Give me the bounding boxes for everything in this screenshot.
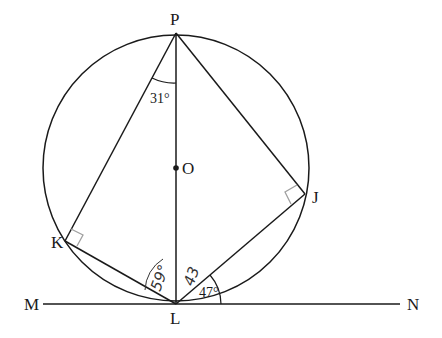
label-p: P [170, 10, 179, 29]
right-angle-marker-k [71, 229, 83, 246]
angle-label-jln: 47° [199, 285, 219, 300]
right-angle-marker-j [285, 185, 297, 204]
angle-label-kpl: 31° [150, 91, 170, 106]
label-o: O [182, 159, 194, 178]
label-j: J [312, 188, 319, 207]
handwritten-angle-59: 59° [147, 262, 173, 293]
label-n: N [407, 295, 419, 314]
chord-pk [65, 33, 176, 241]
center-point-o [173, 165, 179, 171]
circle-geometry-diagram: P O L K J M N 31° 47° 59° 43 [0, 0, 442, 338]
label-m: M [24, 295, 39, 314]
label-k: K [51, 233, 64, 252]
label-l: L [170, 309, 180, 328]
angle-arc-p [152, 78, 176, 83]
chord-pj [176, 33, 305, 194]
